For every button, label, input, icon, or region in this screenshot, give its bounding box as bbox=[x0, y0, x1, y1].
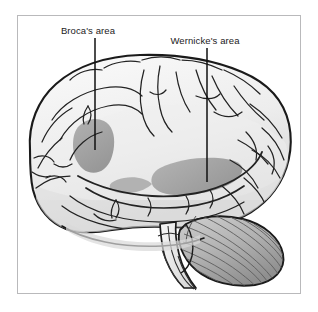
wernickes-area-label: Wernicke's area bbox=[170, 35, 240, 46]
cerebrum-group bbox=[30, 55, 295, 233]
brain-diagram-figure: Broca's area Wernicke's area bbox=[0, 0, 318, 312]
brocas-area-label: Broca's area bbox=[61, 25, 116, 36]
brain-illustration: Broca's area Wernicke's area bbox=[0, 0, 318, 312]
cerebellum-group bbox=[179, 215, 286, 291]
